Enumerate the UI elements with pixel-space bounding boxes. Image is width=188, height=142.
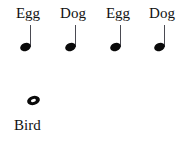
word-label-bird: Bird [14, 117, 41, 133]
note-head [109, 41, 122, 53]
rhythm-chart-canvas: Egg Dog Egg Dog Bird [0, 0, 188, 142]
whole-note-icon-1 [27, 96, 40, 105]
word-label-egg-1: Egg [16, 5, 40, 21]
quarter-note-icon-4 [154, 25, 170, 51]
quarter-note-icon-2 [65, 25, 81, 51]
word-label-dog-1: Dog [60, 5, 86, 21]
note-head [64, 41, 77, 53]
quarter-note-icon-3 [110, 25, 126, 51]
note-head [153, 41, 166, 53]
quarter-note-icon-1 [20, 25, 36, 51]
note-head [19, 41, 32, 53]
word-label-dog-2: Dog [149, 5, 175, 21]
word-label-egg-2: Egg [106, 5, 130, 21]
